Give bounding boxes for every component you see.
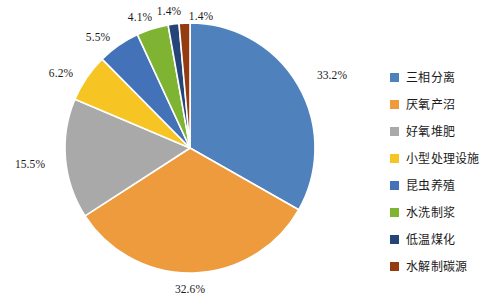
legend-item-label: 水洗制浆 — [406, 207, 455, 219]
pie-percent-label: 1.4% — [189, 11, 213, 23]
legend-item[interactable]: 小型处理设施 — [390, 145, 486, 172]
legend-item-label: 低温煤化 — [406, 234, 455, 246]
legend-item[interactable]: 低温煤化 — [390, 226, 486, 253]
legend-item[interactable]: 好氧堆肥 — [390, 118, 486, 145]
pie-percent-label: 15.5% — [15, 159, 45, 171]
pie-percent-label: 33.2% — [317, 70, 347, 82]
legend-item-label: 三相分离 — [406, 72, 455, 84]
legend-color-swatch-icon — [390, 154, 399, 163]
pie-percent-label: 5.5% — [86, 32, 110, 44]
legend-color-swatch-icon — [390, 235, 399, 244]
legend-item-label: 昆虫养殖 — [406, 180, 455, 192]
legend-color-swatch-icon — [390, 181, 399, 190]
legend-item[interactable]: 水洗制浆 — [390, 199, 486, 226]
legend-color-swatch-icon — [390, 262, 399, 271]
legend-item-label: 厌氧产沼 — [406, 99, 455, 111]
pie-percent-label: 1.4% — [157, 6, 181, 18]
legend-item[interactable]: 水解制碳源 — [390, 253, 486, 280]
chart-legend: 三相分离厌氧产沼好氧堆肥小型处理设施昆虫养殖水洗制浆低温煤化水解制碳源 — [390, 64, 486, 280]
legend-color-swatch-icon — [390, 100, 399, 109]
legend-item-label: 小型处理设施 — [406, 153, 480, 165]
legend-item-label: 水解制碳源 — [406, 261, 468, 273]
legend-item[interactable]: 三相分离 — [390, 64, 486, 91]
pie-chart-figure: 33.2%32.6%15.5%6.2%5.5%4.1%1.4%1.4% 三相分离… — [0, 0, 488, 306]
pie-percent-label: 4.1% — [128, 12, 152, 24]
legend-item[interactable]: 厌氧产沼 — [390, 91, 486, 118]
pie-percent-label: 6.2% — [49, 68, 73, 80]
legend-color-swatch-icon — [390, 73, 399, 82]
pie-slice-group — [65, 23, 315, 273]
legend-color-swatch-icon — [390, 208, 399, 217]
legend-color-swatch-icon — [390, 127, 399, 136]
legend-item-label: 好氧堆肥 — [406, 126, 455, 138]
pie-percent-label: 32.6% — [175, 284, 205, 296]
legend-item[interactable]: 昆虫养殖 — [390, 172, 486, 199]
